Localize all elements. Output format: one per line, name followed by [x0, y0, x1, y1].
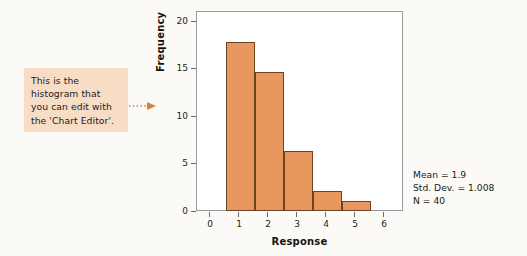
stat-mean: Mean = 1.9 — [413, 168, 523, 181]
ytick-label-5: 5 — [164, 158, 188, 168]
xtick-mark-1 — [238, 212, 239, 217]
xtick-mark-4 — [325, 212, 326, 217]
bar-response-1 — [226, 42, 255, 211]
xtick-label-3: 3 — [288, 219, 306, 229]
xtick-mark-6 — [383, 212, 384, 217]
xtick-mark-0 — [209, 212, 210, 217]
bar-response-4 — [313, 191, 342, 211]
bar-response-5 — [342, 201, 371, 211]
stat-std-dev: Std. Dev. = 1.008 — [413, 181, 523, 194]
x-axis-title: Response — [196, 236, 403, 247]
ytick-label-0: 0 — [164, 206, 188, 216]
figure-root: This is the histogram that you can edit … — [0, 0, 527, 256]
bar-response-2 — [255, 72, 284, 211]
ytick-label-10: 10 — [164, 111, 188, 121]
ytick-mark-15 — [191, 68, 196, 69]
xtick-label-6: 6 — [375, 219, 393, 229]
ytick-label-15: 15 — [164, 63, 188, 73]
xtick-label-4: 4 — [317, 219, 335, 229]
xtick-label-0: 0 — [201, 219, 219, 229]
xtick-label-2: 2 — [259, 219, 277, 229]
xtick-mark-2 — [267, 212, 268, 217]
xtick-label-1: 1 — [230, 219, 248, 229]
ytick-mark-10 — [191, 116, 196, 117]
stat-n: N = 40 — [413, 194, 523, 207]
xtick-mark-5 — [354, 212, 355, 217]
statistics-block: Mean = 1.9 Std. Dev. = 1.008 N = 40 — [413, 168, 523, 207]
xtick-mark-3 — [296, 212, 297, 217]
xtick-label-5: 5 — [346, 219, 364, 229]
bars-container — [197, 12, 402, 211]
y-axis-title: Frequency — [155, 12, 166, 72]
ytick-mark-5 — [191, 163, 196, 164]
ytick-label-20: 20 — [164, 16, 188, 26]
ytick-mark-0 — [191, 211, 196, 212]
ytick-mark-20 — [191, 21, 196, 22]
bar-response-3 — [284, 151, 313, 211]
histogram-chart: 0 5 10 15 20 0 1 2 3 4 5 6 Response Freq… — [0, 0, 527, 256]
